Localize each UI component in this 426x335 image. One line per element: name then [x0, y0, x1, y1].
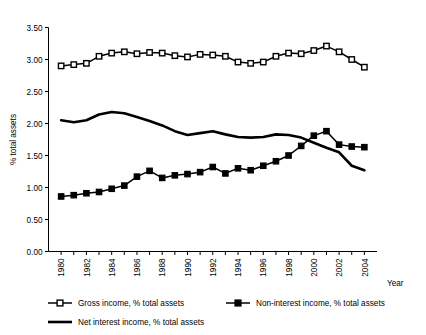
y-tick-label: 1.00 [27, 184, 43, 193]
x-tick-label: 1986 [133, 258, 142, 277]
x-tick-label: 2002 [335, 258, 344, 277]
marker-gross-income [210, 52, 215, 57]
marker-non-interest-income [172, 173, 177, 178]
marker-non-interest-income [109, 186, 114, 191]
legend-swatch-open-square-icon [57, 300, 63, 306]
marker-non-interest-income [261, 163, 266, 168]
marker-non-interest-income [160, 175, 165, 180]
x-tick-label: 1996 [259, 258, 268, 277]
marker-gross-income [134, 51, 139, 56]
marker-gross-income [71, 62, 76, 67]
chart-figure: 0.000.501.001.502.002.503.003.5019801982… [0, 0, 426, 335]
line-chart: 0.000.501.001.502.002.503.003.5019801982… [0, 0, 426, 335]
marker-gross-income [336, 49, 341, 54]
x-tick-label: 1982 [83, 258, 92, 277]
series-line-net-interest-income [61, 112, 364, 170]
y-tick-label: 0.00 [27, 248, 43, 257]
marker-gross-income [84, 61, 89, 66]
x-tick-label: 1994 [234, 258, 243, 277]
y-tick-label: 2.50 [27, 88, 43, 97]
marker-non-interest-income [58, 194, 63, 199]
x-tick-label: 1984 [108, 258, 117, 277]
legend-item-non-interest-income: Non-interest income, % total assets [226, 299, 385, 308]
x-axis-title: Year [387, 279, 404, 288]
marker-non-interest-income [122, 183, 127, 188]
y-tick-label: 0.50 [27, 216, 43, 225]
legend-label: Non-interest income, % total assets [256, 299, 385, 308]
legend-label: Net interest income, % total assets [78, 318, 204, 327]
marker-gross-income [109, 50, 114, 55]
marker-gross-income [235, 59, 240, 64]
y-tick-label: 1.50 [27, 152, 43, 161]
marker-gross-income [147, 50, 152, 55]
marker-gross-income [223, 54, 228, 59]
marker-non-interest-income [336, 142, 341, 147]
marker-non-interest-income [349, 144, 354, 149]
marker-non-interest-income [185, 171, 190, 176]
y-tick-label: 2.00 [27, 120, 43, 129]
marker-non-interest-income [96, 189, 101, 194]
marker-gross-income [160, 50, 165, 55]
marker-non-interest-income [147, 168, 152, 173]
marker-non-interest-income [324, 128, 329, 133]
legend-label: Gross income, % total assets [78, 299, 184, 308]
marker-gross-income [298, 51, 303, 56]
marker-gross-income [58, 63, 63, 68]
marker-gross-income [261, 59, 266, 64]
marker-non-interest-income [286, 153, 291, 158]
marker-non-interest-income [298, 143, 303, 148]
x-tick-label: 1992 [209, 258, 218, 277]
marker-non-interest-income [311, 133, 316, 138]
x-tick-label: 1988 [158, 258, 167, 277]
marker-non-interest-income [248, 168, 253, 173]
y-axis-title: % total assets [9, 114, 18, 165]
marker-non-interest-income [197, 169, 202, 174]
marker-gross-income [286, 50, 291, 55]
marker-gross-income [248, 61, 253, 66]
x-tick-label: 1998 [285, 258, 294, 277]
marker-gross-income [172, 53, 177, 58]
marker-non-interest-income [134, 174, 139, 179]
marker-non-interest-income [362, 144, 367, 149]
marker-gross-income [96, 54, 101, 59]
marker-non-interest-income [84, 191, 89, 196]
marker-gross-income [197, 52, 202, 57]
marker-gross-income [273, 54, 278, 59]
y-tick-label: 3.00 [27, 56, 43, 65]
x-tick-label: 1990 [184, 258, 193, 277]
marker-gross-income [311, 48, 316, 53]
marker-non-interest-income [235, 166, 240, 171]
marker-gross-income [324, 43, 329, 48]
marker-gross-income [349, 57, 354, 62]
y-tick-label: 3.50 [27, 24, 43, 33]
x-tick-label: 1980 [57, 258, 66, 277]
marker-non-interest-income [273, 159, 278, 164]
legend-item-net-interest-income: Net interest income, % total assets [48, 318, 204, 327]
x-tick-label: 2004 [361, 258, 370, 277]
marker-non-interest-income [210, 164, 215, 169]
x-tick-label: 2000 [310, 258, 319, 277]
marker-gross-income [185, 54, 190, 59]
marker-gross-income [122, 49, 127, 54]
marker-non-interest-income [223, 171, 228, 176]
legend-swatch-filled-square-icon [235, 300, 241, 306]
legend-item-gross-income: Gross income, % total assets [48, 299, 184, 308]
marker-gross-income [362, 64, 367, 69]
marker-non-interest-income [71, 192, 76, 197]
